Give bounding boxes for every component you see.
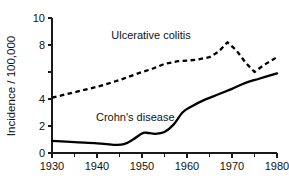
x-tick-label-1980: 1980 <box>265 160 289 172</box>
x-axis-group: 193019401950196019701980 <box>40 153 289 172</box>
y-axis-title: Incidence / 100,000 <box>5 36 17 136</box>
series-line-crohn-s-disease <box>52 73 277 145</box>
x-tick-label-1970: 1970 <box>220 160 244 172</box>
series-label-ulcerative-colitis: Ulcerative colitis <box>111 29 191 41</box>
series-line-ulcerative-colitis <box>52 42 277 97</box>
series-label-crohn-s-disease: Crohn's disease <box>96 111 175 123</box>
y-tick-label-0: 0 <box>39 147 45 159</box>
x-axis-tick-labels: 193019401950196019701980 <box>40 160 289 172</box>
y-tick-label-2: 2 <box>39 120 45 132</box>
y-tick-label-8: 8 <box>39 39 45 51</box>
y-tick-label-10: 10 <box>33 12 45 24</box>
chart-canvas: 024810 193019401950196019701980 Incidenc… <box>0 0 289 184</box>
x-axis-ticks <box>52 153 277 158</box>
x-tick-label-1940: 1940 <box>85 160 109 172</box>
incidence-line-chart: 024810 193019401950196019701980 Incidenc… <box>0 0 289 184</box>
series-annotations-group: Ulcerative colitisCrohn's disease <box>96 29 191 123</box>
x-tick-label-1930: 1930 <box>40 160 64 172</box>
series-paths-group <box>52 42 277 145</box>
y-axis-tick-labels: 024810 <box>33 12 45 159</box>
x-tick-label-1950: 1950 <box>130 160 154 172</box>
y-axis-ticks <box>48 18 52 153</box>
x-tick-label-1960: 1960 <box>175 160 199 172</box>
y-axis-group: 024810 <box>33 12 52 159</box>
y-tick-label-4: 4 <box>39 93 45 105</box>
